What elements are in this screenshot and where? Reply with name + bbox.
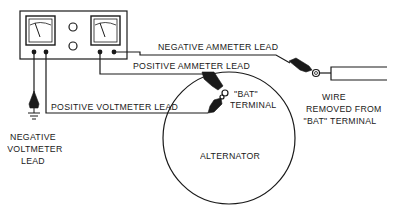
wire-removed-label-line2: REMOVED FROM	[306, 103, 374, 114]
alligator-clip-icon	[289, 58, 312, 72]
alligator-clip-icon	[202, 72, 223, 90]
positive-ammeter-lead-label: POSITIVE AMMETER LEAD	[133, 60, 250, 71]
negative-voltmeter-label-line2: VOLTMETER	[7, 143, 59, 154]
positive-voltmeter-lead-label: POSITIVE VOLTMETER LEAD	[51, 101, 178, 112]
alternator-label: ALTERNATOR	[200, 150, 260, 161]
alligator-clip-icon	[29, 91, 39, 108]
negative-voltmeter-label-line3: LEAD	[19, 155, 47, 166]
alligator-clip-icon	[208, 98, 222, 113]
ammeter-icon	[91, 16, 120, 45]
wire-removed-label-line1: WIRE	[320, 91, 348, 102]
removed-wire-ring-terminal-icon	[313, 70, 320, 77]
removed-wire-icon	[331, 67, 387, 80]
knob-icon	[69, 23, 77, 31]
negative-voltmeter-label-line1: NEGATIVE	[10, 131, 56, 142]
negative-ammeter-lead-label: NEGATIVE AMMETER LEAD	[158, 41, 278, 52]
bat-terminal-label-line1: "BAT"	[234, 88, 258, 99]
ground-symbol-icon	[28, 108, 40, 119]
bat-terminal-label-line2: TERMINAL	[230, 99, 276, 110]
knob-icon	[69, 42, 77, 50]
alternator-test-diagram: NEGATIVE AMMETER LEAD POSITIVE AMMETER L…	[0, 0, 398, 206]
alternator-housing	[163, 72, 295, 204]
voltmeter-icon	[26, 16, 55, 45]
wire-removed-label-line3: "BAT" TERMINAL	[303, 115, 377, 126]
